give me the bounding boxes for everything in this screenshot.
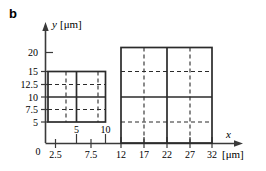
x-tick-label-7-5: 7.5 [85,149,98,160]
x-tick-label-27: 27 [185,149,195,160]
y-axis-symbol-label: y [51,18,57,30]
x-tick-label-32: 32 [207,149,217,160]
region-small-block [48,72,106,123]
origin-label: 0 [36,146,41,157]
y-tick-labels: 20 15 12.5 10 7.5 5 [21,47,39,128]
x-tick-labels-upper: 5 10 [74,124,111,135]
figure-canvas: b y [μm] x [μm] 0 [0,0,266,171]
x-axis-unit-label: [μm] [222,148,244,160]
y-tick-label-20: 20 [28,47,38,58]
x-tick-label-10: 10 [101,124,111,135]
y-axis-unit-label: [μm] [60,18,82,30]
y-axis-arrowhead [42,22,48,31]
x-axis-symbol-label: x [225,128,231,140]
x-tick-marks [56,134,213,148]
x-tick-label-12: 12 [116,149,126,160]
y-tick-label-7-5: 7.5 [26,104,39,115]
figure-panel-b: b y [μm] x [μm] 0 [0,0,266,171]
x-tick-labels-lower: 2.5 7.5 12 17 22 27 32 [49,149,217,160]
y-tick-label-5: 5 [33,117,38,128]
y-tick-label-15: 15 [28,66,38,77]
x-tick-label-17: 17 [139,149,149,160]
x-tick-label-22: 22 [162,149,172,160]
y-tick-marks [41,53,53,123]
y-tick-label-12-5: 12.5 [21,79,39,90]
panel-letter-b: b [9,6,17,21]
y-tick-label-10: 10 [28,92,38,103]
x-tick-label-5: 5 [74,124,79,135]
region-large-block [121,48,212,144]
x-axis-arrowhead [234,140,243,146]
x-tick-label-2-5: 2.5 [49,149,62,160]
